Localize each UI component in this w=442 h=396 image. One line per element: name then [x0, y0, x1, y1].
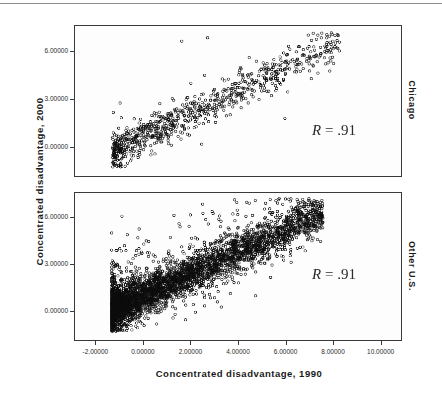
correlation-annotation-other: R = .91: [312, 266, 356, 283]
scatterplot-figure: Concentrated disadvantage, 2000 Chicago …: [0, 0, 442, 396]
x-tick-mark: [286, 341, 287, 345]
y-tick-mark: [70, 51, 74, 52]
scatter-canvas-chicago: [75, 26, 401, 176]
x-tick-label: 10.00000: [351, 348, 411, 355]
y-tick-mark: [70, 264, 74, 265]
x-tick-mark: [238, 341, 239, 345]
correlation-value-other: = .91: [325, 266, 356, 282]
x-tick-mark: [143, 341, 144, 345]
y-tick-mark: [70, 147, 74, 148]
y-tick-label: 3.00000: [22, 95, 68, 102]
x-tick-mark: [333, 341, 334, 345]
top-rule-divider: [0, 3, 442, 4]
x-axis-title: Concentrated disadvantage, 1990: [74, 368, 404, 379]
correlation-symbol-other: R: [312, 266, 321, 282]
panel-strip-label-chicago: Chicago: [407, 24, 417, 176]
correlation-annotation-chicago: R = .91: [312, 122, 356, 139]
panel-strip-label-other: Other U.S.: [407, 190, 417, 342]
x-tick-mark: [95, 341, 96, 345]
y-tick-mark: [70, 217, 74, 218]
correlation-value-chicago: = .91: [325, 122, 356, 138]
y-tick-label: 0.00000: [22, 307, 68, 314]
correlation-symbol-chicago: R: [312, 122, 321, 138]
y-tick-label: 6.00000: [22, 213, 68, 220]
y-tick-mark: [70, 99, 74, 100]
y-tick-label: 0.00000: [22, 143, 68, 150]
panel-chicago: [74, 25, 402, 177]
y-tick-label: 3.00000: [22, 260, 68, 267]
x-tick-mark: [381, 341, 382, 345]
y-tick-mark: [70, 311, 74, 312]
y-tick-label: 6.00000: [22, 47, 68, 54]
x-tick-mark: [190, 341, 191, 345]
